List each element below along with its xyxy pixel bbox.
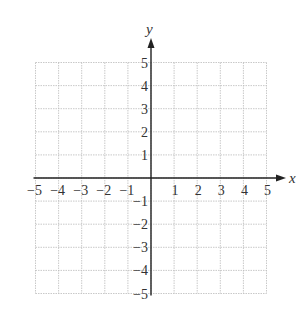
y-axis-label: y <box>144 21 153 37</box>
x-axis-label: x <box>288 170 296 186</box>
x-tick-label: −4 <box>50 183 65 198</box>
x-tick-label: 1 <box>172 183 179 198</box>
y-tick-label: 2 <box>141 125 148 140</box>
x-tick-label: 3 <box>218 183 225 198</box>
y-tick-label: 1 <box>141 148 148 163</box>
x-tick-label: 2 <box>195 183 202 198</box>
x-tick-label: 4 <box>241 183 248 198</box>
y-axis-arrow-icon <box>148 38 155 48</box>
y-tick-label: 4 <box>141 79 148 94</box>
x-tick-label: −3 <box>73 183 88 198</box>
x-axis-arrow-icon <box>276 175 286 182</box>
y-tick-label: −2 <box>133 217 148 232</box>
y-tick-label: −4 <box>133 263 148 278</box>
y-tick-label: 5 <box>141 56 148 71</box>
x-tick-label: −2 <box>96 183 111 198</box>
x-tick-label: −5 <box>27 183 42 198</box>
y-tick-label: −3 <box>133 240 148 255</box>
x-tick-label: 5 <box>264 183 271 198</box>
y-tick-label: −1 <box>133 194 148 209</box>
y-tick-label: 3 <box>141 102 148 117</box>
y-tick-label: −5 <box>133 287 148 302</box>
coordinate-plane: xy−5−4−3−2−11234554321−1−2−3−4−5 <box>0 0 308 318</box>
